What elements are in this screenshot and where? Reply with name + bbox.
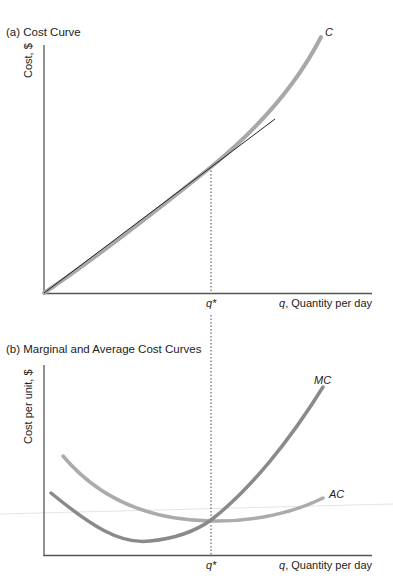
panel-b-q-star-label: q* (206, 559, 217, 571)
cost-curve-c (44, 37, 321, 293)
mc-curve-label: MC (314, 374, 331, 386)
panel-b-title: (b) Marginal and Average Cost Curves (6, 343, 202, 355)
panel-b-x-axis-label: q, Quantity per day (279, 559, 372, 571)
panel-a-y-axis-label: Cost, $ (22, 43, 34, 78)
panel-a-cost-curve: (a) Cost Curve Cost, $ C q* q, Quantity … (6, 26, 372, 309)
panel-a-title: (a) Cost Curve (6, 26, 81, 38)
scan-artifact-line (0, 504, 393, 514)
panel-b-mc-ac-curves: (b) Marginal and Average Cost Curves Cos… (6, 315, 372, 571)
panel-b-y-axis-label: Cost per unit, $ (22, 369, 34, 444)
panel-a-q-star-label: q* (206, 297, 217, 309)
ac-curve-label: AC (328, 488, 344, 500)
cost-curve-label: C (325, 26, 333, 38)
panel-a-x-axis-label: q, Quantity per day (279, 297, 372, 309)
tangent-ray-line (44, 119, 275, 293)
cost-curves-diagram: (a) Cost Curve Cost, $ C q* q, Quantity … (0, 0, 393, 585)
